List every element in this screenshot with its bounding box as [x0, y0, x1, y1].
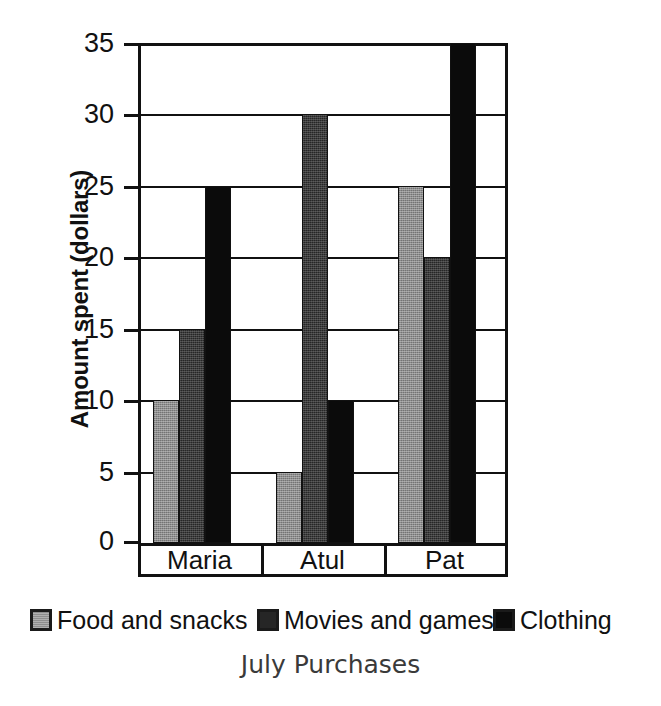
x-axis-separator-right: [505, 543, 508, 577]
bars-layer: [138, 43, 508, 543]
legend: Food and snacks Movies and games Clothin…: [30, 603, 645, 637]
bar-chart: Amount spent (dollars) 35 30 25 20: [0, 0, 661, 706]
category-label-pat: Pat: [384, 545, 505, 576]
bar-atul-food-and-snacks: [276, 472, 302, 543]
y-tick-label-35: 35: [84, 28, 114, 59]
category-label-maria: Maria: [138, 545, 261, 576]
legend-swatch-icon-movies-and-games: [257, 609, 279, 631]
y-tick-label-25: 25: [84, 171, 114, 202]
y-tick-mark-30: [124, 114, 138, 117]
bar-atul-clothing: [328, 400, 354, 543]
y-tick-label-30: 30: [84, 99, 114, 130]
y-tick-mark-20: [124, 257, 138, 260]
legend-item-clothing: Clothing: [493, 603, 612, 637]
bar-maria-clothing: [205, 186, 231, 543]
legend-item-food-and-snacks: Food and snacks: [30, 603, 247, 637]
chart-title: July Purchases: [0, 650, 661, 679]
legend-label-clothing: Clothing: [520, 608, 612, 633]
legend-item-movies-and-games: Movies and games: [257, 603, 494, 637]
y-tick-mark-5: [124, 472, 138, 475]
bar-atul-movies-and-games: [302, 114, 328, 543]
y-axis-title: Amount spent (dollars): [66, 99, 94, 499]
y-tick-label-15: 15: [84, 314, 114, 345]
legend-label-movies-and-games: Movies and games: [284, 608, 494, 633]
plot-area: 35 30 25 20 15 10: [138, 43, 508, 543]
legend-swatch-icon-clothing: [493, 609, 515, 631]
y-tick-mark-0: [124, 541, 138, 544]
bar-pat-clothing: [450, 43, 476, 543]
category-label-atul: Atul: [261, 545, 384, 576]
bar-maria-food-and-snacks: [153, 400, 179, 543]
y-tick-mark-25: [124, 186, 138, 189]
y-tick-mark-35: [124, 43, 138, 46]
y-tick-label-5: 5: [99, 457, 114, 488]
y-tick-label-20: 20: [84, 242, 114, 273]
legend-swatch-icon-food-and-snacks: [30, 609, 52, 631]
y-tick-label-10: 10: [84, 385, 114, 416]
y-tick-mark-15: [124, 329, 138, 332]
y-tick-label-0: 0: [99, 526, 114, 557]
legend-label-food-and-snacks: Food and snacks: [57, 608, 247, 633]
y-tick-mark-10: [124, 400, 138, 403]
bar-pat-movies-and-games: [424, 257, 450, 543]
bar-maria-movies-and-games: [179, 329, 205, 543]
bar-pat-food-and-snacks: [398, 186, 424, 543]
